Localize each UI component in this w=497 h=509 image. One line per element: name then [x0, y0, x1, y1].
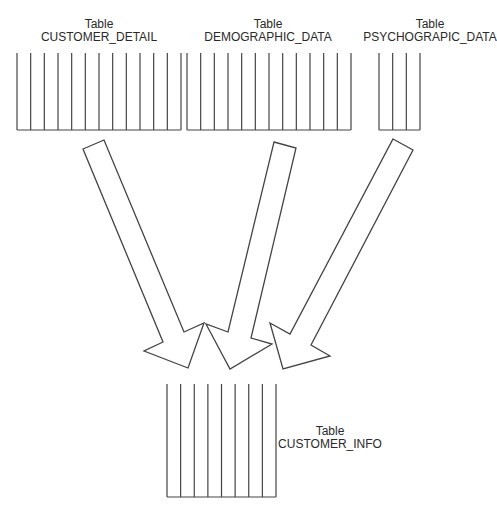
table-name-label: PSYCHOGRAPIC_DATA: [363, 31, 497, 44]
table-demographic-data: [187, 53, 351, 130]
arrow-icon-psychograpic-data-to-customer-info: [270, 139, 413, 369]
table-label-customer-info: Table CUSTOMER_INFO: [278, 425, 382, 451]
table-name-label: DEMOGRAPHIC_DATA: [204, 31, 332, 44]
table-label-psychograpic-data: Table PSYCHOGRAPIC_DATA: [363, 18, 497, 44]
table-name-label: CUSTOMER_DETAIL: [41, 31, 157, 44]
table-name-label: CUSTOMER_INFO: [278, 438, 382, 451]
table-label-customer-detail: Table CUSTOMER_DETAIL: [41, 18, 157, 44]
table-customer-info: [167, 384, 276, 497]
arrows-layer: [83, 139, 413, 369]
arrow-icon-customer-detail-to-customer-info: [83, 140, 204, 368]
table-psychograpic-data: [379, 53, 420, 130]
table-customer-detail: [17, 53, 181, 130]
table-label-demographic-data: Table DEMOGRAPHIC_DATA: [204, 18, 332, 44]
